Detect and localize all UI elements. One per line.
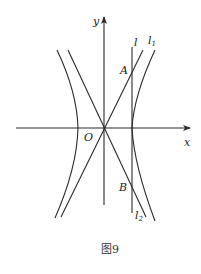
x-axis-label: x — [184, 136, 191, 149]
hyperbola-diagram: y x O l l1 l2 A B 图9 — [0, 0, 201, 274]
line-l2-label: l2 — [135, 209, 144, 223]
line-l-label: l — [134, 36, 138, 49]
asymptote-l2 — [68, 50, 146, 217]
y-axis-label: y — [92, 15, 100, 28]
point-a-label: A — [119, 64, 128, 77]
line-l1-label: l1 — [148, 34, 156, 48]
figure-caption: 图9 — [101, 243, 119, 256]
asymptote-l1 — [61, 50, 143, 217]
hyperbola-left-branch — [55, 50, 78, 218]
point-b-label: B — [118, 181, 127, 194]
origin-label: O — [84, 131, 93, 144]
